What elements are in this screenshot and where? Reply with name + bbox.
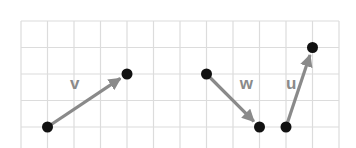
vector-w-end-point [254,122,265,133]
vector-v-start-point [42,122,53,133]
vector-w-label: w [239,74,254,93]
vector-u-label: u [286,74,296,93]
vector-v-end-point [122,69,133,80]
vector-v-arrow [48,78,121,127]
vector-v-label: v [70,74,80,93]
vector-u-end-point [307,42,318,53]
vector-w-start-point [201,69,212,80]
vector-diagram: vwu [0,0,356,148]
vector-u-start-point [281,122,292,133]
